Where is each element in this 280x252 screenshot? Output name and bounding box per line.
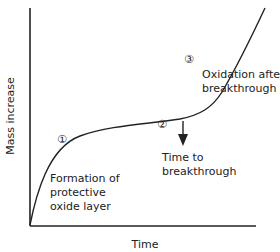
stage1-line2: protective bbox=[50, 186, 106, 199]
stage3-line1: Oxidation after bbox=[202, 68, 280, 81]
marker-3: ③ bbox=[184, 53, 194, 66]
stage3-line2: breakthrough bbox=[202, 82, 276, 95]
breakthrough-line2: breakthrough bbox=[162, 165, 236, 178]
x-axis-label: Time bbox=[131, 238, 159, 251]
y-axis-label: Mass increase bbox=[4, 77, 17, 155]
breakthrough-line1: Time to bbox=[161, 151, 204, 164]
breakthrough-arrow-head bbox=[178, 134, 188, 146]
marker-1: ① bbox=[57, 133, 67, 146]
marker-2: ② bbox=[157, 118, 167, 131]
oxidation-diagram: ① ② ③ Formation of protective oxide laye… bbox=[0, 0, 280, 252]
stage1-line3: oxide layer bbox=[50, 200, 111, 213]
stage1-line1: Formation of bbox=[50, 172, 121, 185]
